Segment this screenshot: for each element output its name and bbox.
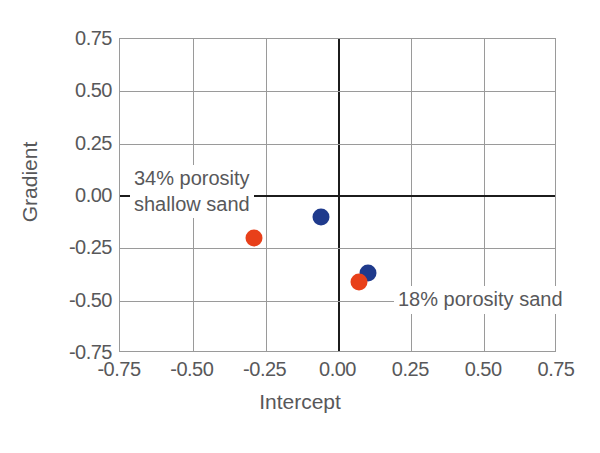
x-tick-label: 0.25 [392, 358, 429, 381]
scatter-chart-figure: -0.75-0.50-0.250.000.250.500.75 0.750.50… [0, 0, 600, 453]
x-tick-label: -0.50 [170, 358, 213, 381]
data-point-blue [313, 208, 330, 225]
annotation-shallow-sand-line1: 34% porosity [134, 166, 250, 192]
data-point-orange [246, 229, 263, 246]
y-axis-title: Gradient [18, 92, 42, 272]
annotation-shallow-sand-line2: shallow sand [134, 192, 250, 218]
y-tick-label: -0.25 [69, 236, 112, 259]
gridline-horizontal [120, 144, 555, 145]
y-tick-label: 0.25 [75, 131, 112, 154]
data-point-orange [350, 273, 367, 290]
y-tick-label: 0.50 [75, 79, 112, 102]
annotation-18-porosity-sand: 18% porosity sand [394, 286, 567, 314]
y-tick-label: -0.50 [69, 288, 112, 311]
y-tick-label: -0.75 [69, 341, 112, 364]
x-tick-label: 0.75 [538, 358, 575, 381]
gridline-horizontal [120, 91, 555, 92]
x-axis-title: Intercept [0, 390, 600, 414]
annotation-shallow-sand: 34% porosity shallow sand [130, 165, 254, 218]
y-tick-label: 0.75 [75, 27, 112, 50]
y-tick-label: 0.00 [75, 184, 112, 207]
x-tick-label: -0.25 [243, 358, 286, 381]
x-tick-label: 0.00 [319, 358, 356, 381]
annotation-18-porosity-sand-line1: 18% porosity sand [398, 287, 563, 313]
gridline-horizontal [120, 248, 555, 249]
x-tick-label: 0.50 [465, 358, 502, 381]
